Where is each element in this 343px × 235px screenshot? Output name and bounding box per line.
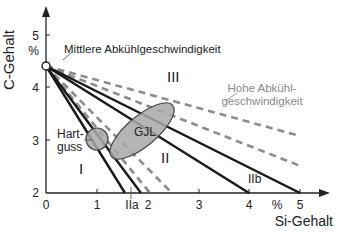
x-tick-0: 0 xyxy=(43,198,50,212)
x-axis-title: Si-Gehalt xyxy=(275,213,333,229)
hartguss-label-2: guss xyxy=(57,140,82,154)
region-2b-label: IIb xyxy=(248,172,262,186)
hartguss-label-1: Hart- xyxy=(57,127,84,141)
x-tick-5: 5 xyxy=(297,198,304,212)
cooling-rate-diagram: C-Gehalt 5 % 4 3 2 0 1 2 3 4 % 5 Si-Geha… xyxy=(0,0,343,235)
region-1-label: I xyxy=(79,160,83,177)
high-cooling-label-1: Hohe Abkühl- xyxy=(227,82,296,94)
hartguss-region xyxy=(86,128,108,150)
y-tick-5: 5 xyxy=(32,29,39,43)
x-tick-2: 2 xyxy=(145,198,152,212)
y-tick-4: 4 xyxy=(32,81,39,95)
medium-cooling-label: Mittlere Abkühlgeschwindigkeit xyxy=(64,43,221,55)
y-tick-2: 2 xyxy=(32,186,39,200)
y-tick-3: 3 xyxy=(32,134,39,148)
x-tick-3: 3 xyxy=(196,198,203,212)
y-unit: % xyxy=(28,44,39,58)
region-3-label: III xyxy=(167,68,180,85)
x-unit: % xyxy=(272,198,283,212)
region-2-label: II xyxy=(161,149,169,166)
origin-point xyxy=(42,62,50,70)
y-axis-arrow-icon xyxy=(42,6,50,17)
x-axis-arrow-icon xyxy=(319,189,330,197)
x-tick-1: 1 xyxy=(94,198,101,212)
x-tick-4: 4 xyxy=(246,198,253,212)
region-2a-label: IIa xyxy=(125,198,139,212)
high-cooling-label-2: geschwindigkeit xyxy=(221,95,303,107)
gjl-label: GJL xyxy=(134,125,156,139)
y-axis-title: C-Gehalt xyxy=(0,29,17,90)
